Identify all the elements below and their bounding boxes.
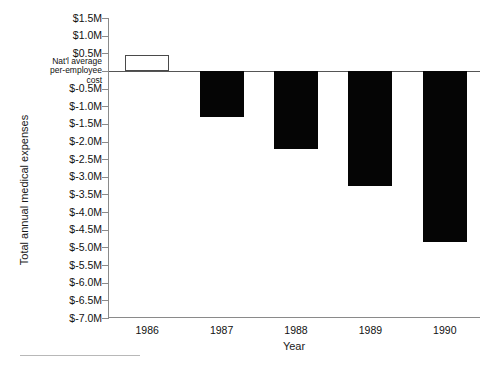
y-axis-tickmark bbox=[102, 283, 109, 284]
bar-1986 bbox=[125, 55, 169, 71]
y-axis-tick-label: $-4.5M bbox=[30, 224, 102, 235]
y-axis-tickmark bbox=[102, 71, 109, 72]
x-axis-line bbox=[108, 317, 480, 318]
y-axis-tickmark bbox=[102, 230, 109, 231]
bar-1989 bbox=[348, 71, 392, 186]
y-axis-tick-labels: $1.5M$1.0M$0.5MNat'l average per-employe… bbox=[30, 0, 102, 366]
x-axis-tick-label: 1990 bbox=[410, 324, 480, 336]
y-axis-tick-label: $-7.0M bbox=[30, 313, 102, 324]
bar-1990 bbox=[423, 71, 467, 242]
bar-1987 bbox=[200, 71, 244, 117]
y-axis-tickmark bbox=[102, 36, 109, 37]
y-axis-tick-label: $-5.5M bbox=[30, 260, 102, 271]
y-axis-tick-label: $-6.0M bbox=[30, 277, 102, 288]
y-axis-tickmark bbox=[102, 89, 109, 90]
y-axis-line bbox=[108, 18, 109, 318]
y-axis-tickmark bbox=[102, 265, 109, 266]
x-axis-tick-label: 1988 bbox=[261, 324, 331, 336]
plot-area: 19861987198819891990 Year bbox=[108, 18, 480, 318]
y-axis-tick-label: $-0.5M bbox=[30, 83, 102, 94]
y-axis-tickmark bbox=[102, 53, 109, 54]
y-axis-title-text: Total annual medical expenses bbox=[18, 115, 30, 265]
y-axis-tickmark bbox=[102, 124, 109, 125]
y-axis-tickmark bbox=[102, 212, 109, 213]
y-axis-tickmark bbox=[102, 300, 109, 301]
y-axis-zero-reference-label: Nat'l average per-employee cost bbox=[30, 57, 102, 85]
y-axis-tickmark bbox=[102, 159, 109, 160]
bar-1988 bbox=[274, 71, 318, 149]
y-axis-tickmark bbox=[102, 318, 109, 319]
y-axis-tickmark bbox=[102, 247, 109, 248]
y-axis-tick-label: $-4.0M bbox=[30, 207, 102, 218]
x-axis-tick-label: 1986 bbox=[112, 324, 182, 336]
y-axis-tickmark bbox=[102, 194, 109, 195]
y-axis-tickmark bbox=[102, 177, 109, 178]
y-axis-tickmark bbox=[102, 142, 109, 143]
y-axis-tick-label: $-1.5M bbox=[30, 118, 102, 129]
y-axis-tick-label: $-6.5M bbox=[30, 295, 102, 306]
footer-divider bbox=[20, 355, 140, 356]
y-axis-tick-label: $-3.0M bbox=[30, 171, 102, 182]
y-axis-tickmark bbox=[102, 106, 109, 107]
y-axis-tickmark bbox=[102, 18, 109, 19]
x-axis-tick-label: 1989 bbox=[335, 324, 405, 336]
x-axis-title: Year bbox=[108, 340, 480, 352]
y-axis-tick-label: $-3.5M bbox=[30, 189, 102, 200]
y-axis-tick-label: $1.5M bbox=[30, 13, 102, 24]
chart-figure: Total annual medical expenses $1.5M$1.0M… bbox=[0, 0, 485, 366]
y-axis-tick-label: $-1.0M bbox=[30, 101, 102, 112]
y-axis-tick-label: $1.0M bbox=[30, 30, 102, 41]
y-axis-tick-label: $-2.0M bbox=[30, 136, 102, 147]
y-axis-tick-label: $-2.5M bbox=[30, 154, 102, 165]
x-axis-tick-label: 1987 bbox=[187, 324, 257, 336]
y-axis-tick-label: $-5.0M bbox=[30, 242, 102, 253]
